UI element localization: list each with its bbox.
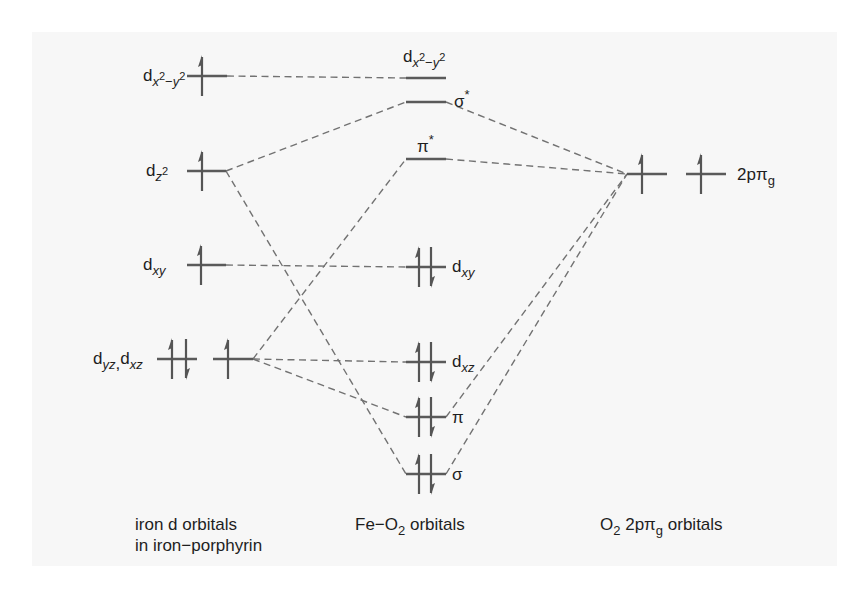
label-feo2-pi: π: [452, 408, 464, 427]
mo-diagram: dx2−y2 dz2 dxy: [0, 0, 868, 590]
label-feo2-sigma: σ: [452, 465, 463, 484]
caption-iron-line1: iron d orbitals: [135, 515, 237, 534]
diagram-panel: [32, 32, 837, 566]
caption-iron-line2: in iron−porphyrin: [135, 536, 262, 555]
